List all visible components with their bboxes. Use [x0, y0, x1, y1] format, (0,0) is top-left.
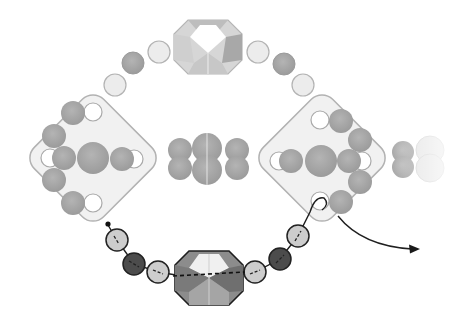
- seed-bead: [42, 168, 66, 192]
- tile-hole: [311, 111, 329, 129]
- seed-bead: [148, 41, 170, 63]
- seed-bead: [247, 41, 269, 63]
- right-fade-beads: [385, 130, 467, 190]
- top-octagon-crystal: [174, 20, 242, 74]
- center-row-beads: [168, 133, 249, 185]
- seed-bead: [337, 149, 361, 173]
- tile-hole: [84, 194, 102, 212]
- seed-bead: [273, 53, 295, 75]
- seed-bead: [348, 170, 372, 194]
- tile-hole: [84, 103, 102, 121]
- thread-start-knot: [105, 221, 110, 226]
- bottom-octagon-crystal: [173, 251, 245, 305]
- beading-diagram: [0, 0, 467, 321]
- seed-bead: [106, 229, 128, 251]
- right-two-hole-tile: [253, 89, 392, 228]
- arrow-head-icon: [409, 245, 420, 254]
- seed-bead: [279, 149, 303, 173]
- seed-bead: [292, 74, 314, 96]
- left-two-hole-tile: [24, 89, 163, 228]
- seed-bead: [104, 74, 126, 96]
- seed-bead: [348, 128, 372, 152]
- seed-bead: [122, 52, 144, 74]
- seed-bead: [42, 124, 66, 148]
- seed-bead: [225, 156, 249, 180]
- seed-bead: [110, 147, 134, 171]
- round-bead: [77, 142, 109, 174]
- seed-bead: [52, 146, 76, 170]
- seed-bead: [329, 190, 353, 214]
- seed-bead: [168, 156, 192, 180]
- round-bead: [305, 145, 337, 177]
- seed-bead: [61, 101, 85, 125]
- seed-bead: [61, 191, 85, 215]
- seed-bead: [329, 109, 353, 133]
- exit-thread: [338, 216, 412, 249]
